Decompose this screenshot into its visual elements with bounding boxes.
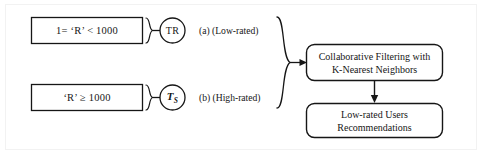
collaborative-filtering-line-2: K-Nearest Neighbors [308,63,442,76]
filtering-to-output-arrowhead-icon [371,95,378,103]
high-rated-brace-icon [146,85,153,110]
collaborative-filtering-line-1: Collaborative Filtering with [308,50,442,63]
high-rated-node-label: TS [167,90,179,106]
high-rated-node-symbol-base: T [167,90,174,102]
high-rated-condition-text: ‘R’ ≥ 1000 [63,92,110,104]
recommendations-output-line-1: Low-rated Users [308,108,442,121]
merge-brace-icon [277,17,290,108]
low-rated-node-label: TR [166,25,179,37]
recommendations-output-label: Low-rated Users Recommendations [308,108,442,134]
collaborative-filtering-label: Collaborative Filtering with K-Nearest N… [308,50,442,76]
high-rated-branch-label: (b) (High-rated) [199,92,261,103]
high-rated-node-symbol-sub: S [174,96,178,105]
low-rated-brace-icon [146,18,153,43]
recommendations-output-line-2: Recommendations [308,121,442,134]
low-rated-branch-label: (a) (Low-rated) [199,25,258,36]
figure-diagram: 1= ‘R’ < 1000 TR (a) (Low-rated) ‘R’ ≥ 1… [0,0,484,156]
low-rated-condition-text: 1= ‘R’ < 1000 [56,25,118,37]
